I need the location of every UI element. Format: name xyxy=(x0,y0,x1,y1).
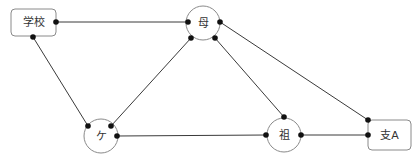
node-label-mother: 母 xyxy=(198,17,209,30)
connector-dot-mother-branch_a-start xyxy=(217,19,223,25)
connector-dot-mother-branch_a-end xyxy=(365,117,371,123)
connector-dot-grandparent-branch_a-start xyxy=(298,132,304,138)
node-mother[interactable]: 母 xyxy=(186,6,220,40)
connector-dot-school-mother-end xyxy=(185,19,191,25)
connector-dot-ke-grandparent-start xyxy=(114,133,120,139)
nodes-layer: 学校母ケ祖支A xyxy=(11,6,411,153)
edge-mother-grandparent xyxy=(215,38,284,117)
connector-dot-school-ke-start xyxy=(30,34,36,40)
connector-dot-ke-grandparent-end xyxy=(263,132,269,138)
connector-dot-mother-ke-start xyxy=(188,35,194,41)
connector-dot-school-ke-end xyxy=(85,123,91,129)
connector-dot-mother-grandparent-end xyxy=(281,114,287,120)
node-school[interactable]: 学校 xyxy=(11,9,56,36)
connector-dot-grandparent-branch_a-end xyxy=(365,132,371,138)
node-grandparent[interactable]: 祖 xyxy=(267,118,301,152)
node-label-branch_a: 支A xyxy=(380,129,399,142)
connector-dot-mother-ke-end xyxy=(108,123,114,129)
edge-school-ke xyxy=(33,37,88,126)
node-label-grandparent: 祖 xyxy=(279,128,290,142)
network-diagram: 学校母ケ祖支A xyxy=(0,0,420,159)
edge-mother-branch_a xyxy=(220,22,368,120)
edge-ke-grandparent xyxy=(117,135,266,136)
connector-dot-school-mother-start xyxy=(53,19,59,25)
edge-mother-ke xyxy=(111,38,191,126)
node-label-ke: ケ xyxy=(96,130,107,143)
node-label-school: 学校 xyxy=(23,15,45,29)
connector-dot-mother-grandparent-start xyxy=(212,35,218,41)
node-branch_a[interactable]: 支A xyxy=(368,120,411,150)
